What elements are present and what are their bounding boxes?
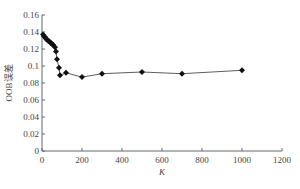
y-tick-label: 0.1	[28, 61, 39, 71]
diamond-marker	[99, 71, 105, 77]
x-tick-label: 200	[75, 155, 89, 165]
diamond-marker	[56, 65, 62, 71]
x-tick-label: 1000	[233, 155, 252, 165]
y-axis: 00.020.040.060.080.10.120.140.16	[23, 10, 45, 156]
diamond-marker	[53, 49, 59, 55]
y-tick-label: 0.04	[23, 112, 39, 122]
y-tick-label: 0.06	[23, 95, 39, 105]
y-tick-label: 0.12	[23, 44, 39, 54]
oob-error-line-chart: 00.020.040.060.080.10.120.140.16 0200400…	[0, 0, 300, 189]
diamond-marker	[179, 71, 185, 77]
x-tick-label: 800	[195, 155, 209, 165]
x-axis: 020040060080010001200	[40, 148, 292, 165]
diamond-marker	[54, 56, 60, 62]
diamond-marker	[239, 67, 245, 73]
y-tick-label: 0.02	[23, 129, 39, 139]
y-tick-label: 0.14	[23, 27, 39, 37]
x-tick-label: 600	[155, 155, 169, 165]
y-tick-label: 0.08	[23, 78, 39, 88]
x-tick-label: 1200	[273, 155, 292, 165]
x-axis-title: K	[158, 167, 166, 177]
y-tick-label: 0.16	[23, 10, 39, 20]
x-tick-label: 0	[40, 155, 45, 165]
diamond-marker	[57, 72, 63, 78]
diamond-marker	[63, 70, 69, 76]
y-tick-label: 0	[35, 146, 40, 156]
diamond-marker	[139, 69, 145, 75]
diamond-marker	[79, 74, 85, 80]
y-axis-title: OOB误差	[3, 64, 14, 101]
x-tick-label: 400	[115, 155, 129, 165]
plot-area	[40, 32, 245, 81]
